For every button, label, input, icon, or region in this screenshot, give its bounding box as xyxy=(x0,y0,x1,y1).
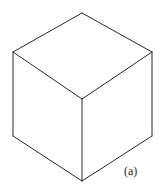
cube-illustration xyxy=(0,0,163,190)
panel-label: (a) xyxy=(124,164,137,178)
figure-panel: (a) xyxy=(0,0,163,190)
